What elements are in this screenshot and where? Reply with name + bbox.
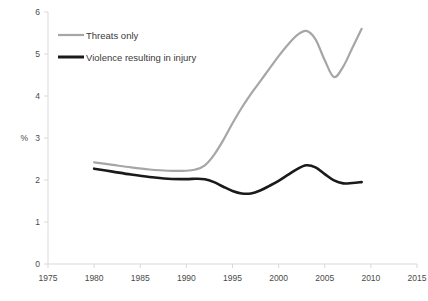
x-tick-label: 2000 <box>269 273 288 283</box>
chart-container: 197519801985199019952000200520102015 012… <box>0 0 428 301</box>
x-tick-label: 1985 <box>131 273 150 283</box>
y-tick-label: 1 <box>35 217 40 227</box>
y-tick-label: 3 <box>35 133 40 143</box>
x-tick-label: 1980 <box>85 273 104 283</box>
y-tick-label: 4 <box>35 91 40 101</box>
x-tick-label: 1990 <box>177 273 196 283</box>
x-tick-label: 1995 <box>223 273 242 283</box>
x-tick-label: 1975 <box>39 273 58 283</box>
x-tick-label: 2010 <box>361 273 380 283</box>
y-tick-label: 0 <box>35 259 40 269</box>
x-tick-label: 2005 <box>315 273 334 283</box>
x-tick-label: 2015 <box>408 273 427 283</box>
y-tick-label: 6 <box>35 7 40 17</box>
legend-label: Threats only <box>86 30 139 41</box>
y-axis-title: % <box>20 133 28 143</box>
line-chart: 197519801985199019952000200520102015 012… <box>0 0 428 301</box>
y-tick-label: 5 <box>35 49 40 59</box>
chart-background <box>0 0 428 301</box>
y-tick-label: 2 <box>35 175 40 185</box>
legend-label: Violence resulting in injury <box>86 52 196 63</box>
